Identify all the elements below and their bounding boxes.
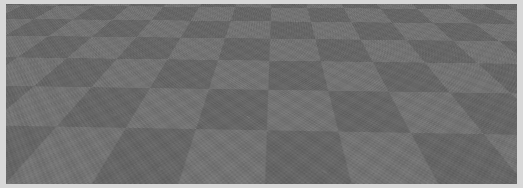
- gizmo-origin-sphere[interactable]: [425, 56, 438, 69]
- gizmo-axis-x: [370, 59, 424, 69]
- gizmo-axis-z: [417, 11, 430, 27]
- transform-gizmo[interactable]: [6, 4, 517, 184]
- viewport-root[interactable]: [0, 0, 523, 188]
- viewport-canvas[interactable]: [6, 4, 517, 184]
